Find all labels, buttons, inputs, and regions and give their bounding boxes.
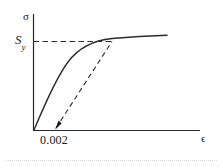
- y-axis-label-sigma: σ: [23, 11, 29, 22]
- stress-strain-figure: σ Sy 0.002 ϵ: [0, 0, 223, 168]
- yield-strength-subscript: y: [22, 42, 26, 52]
- yield-strength-symbol: S: [15, 32, 22, 47]
- yield-strength-label: Sy: [15, 33, 26, 50]
- offset-strain-tick-label: 0.002: [40, 134, 68, 146]
- stress-strain-curve: [34, 35, 167, 130]
- offset-arrowhead-icon: [55, 120, 61, 129]
- bottom-dotted-separator: [6, 160, 217, 162]
- chart-canvas: [0, 0, 223, 168]
- offset-dashed-line: [56, 42, 112, 129]
- x-axis-label-epsilon: ϵ: [201, 133, 205, 144]
